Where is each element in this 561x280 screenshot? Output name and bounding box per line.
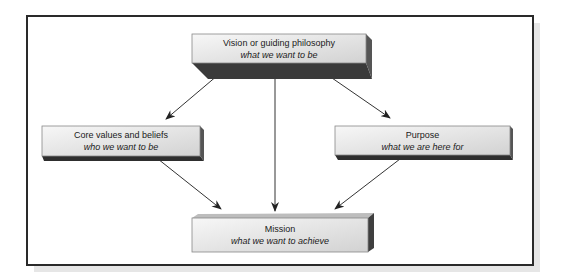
box-top-face [192,213,374,218]
arrow-vision-to-core-values [166,75,218,119]
label-core-values: Core values and beliefs who we want to b… [42,129,200,153]
arrow-purpose-to-mission [335,159,400,209]
node-title: Purpose [335,129,510,141]
arrow-vision-to-purpose [332,78,390,118]
box-side-face [368,213,374,252]
node-subtitle: what we want to achieve [192,235,368,247]
node-title: Mission [192,223,368,235]
box-bottom-face [335,155,513,160]
box-bottom-face [192,63,372,79]
node-subtitle: who we want to be [42,141,200,153]
node-subtitle: what we are here for [335,141,510,153]
box-side-face [510,126,513,160]
arrow-core-values-to-mission [158,159,221,209]
node-title: Core values and beliefs [42,129,200,141]
label-vision: Vision or guiding philosophy what we wan… [192,37,366,61]
node-subtitle: what we want to be [192,49,366,61]
label-mission: Mission what we want to achieve [192,223,368,247]
node-title: Vision or guiding philosophy [192,37,366,49]
box-bottom-face [42,156,204,161]
label-purpose: Purpose what we are here for [335,129,510,153]
box-side-face [200,126,204,161]
